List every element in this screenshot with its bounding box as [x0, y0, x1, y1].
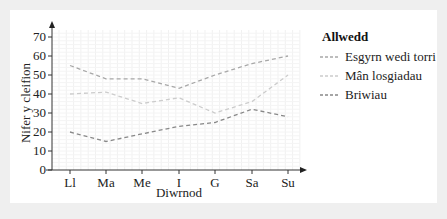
y-tick-label: 30 — [33, 105, 46, 120]
x-tick-label: Me — [133, 175, 151, 190]
y-tick-label: 70 — [33, 29, 46, 44]
x-tick-label: Ll — [64, 175, 76, 190]
legend-item-label: Mân losgiadau — [345, 68, 422, 83]
y-tick-label: 20 — [33, 124, 46, 139]
y-tick-label: 40 — [33, 86, 46, 101]
legend-title: Allwedd — [322, 29, 369, 44]
legend-item-label: Briwiau — [345, 87, 387, 102]
x-tick-label: G — [210, 175, 219, 190]
x-tick-label: Sa — [246, 175, 259, 190]
x-tick-label: Ma — [97, 175, 115, 190]
legend-item-label: Esgyrn wedi torri — [345, 49, 436, 64]
grid-lines — [52, 30, 300, 170]
line-chart: 010203040506070LlMaMeIGSaSu AllweddEsgyr… — [0, 0, 447, 219]
y-tick-label: 60 — [33, 48, 46, 63]
y-tick-label: 50 — [33, 67, 46, 82]
legend: AllweddEsgyrn wedi torriMân losgiadauBri… — [320, 29, 436, 102]
x-tick-label: Su — [281, 175, 295, 190]
y-tick-label: 10 — [33, 143, 46, 158]
y-tick-label: 0 — [40, 162, 47, 177]
x-axis-title: Diwrnod — [156, 185, 203, 200]
y-axis-title: Nifer y cleifion — [18, 62, 33, 143]
